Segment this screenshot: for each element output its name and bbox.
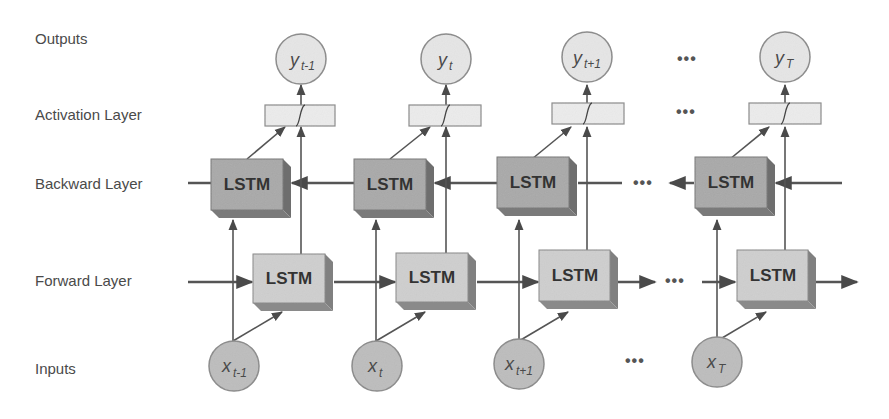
svg-text:t-1: t-1 — [233, 366, 247, 380]
forward-lstm-4: LSTM — [737, 250, 816, 309]
svg-text:y: y — [571, 48, 583, 68]
svg-text:t+1: t+1 — [584, 57, 601, 71]
svg-text:LSTM: LSTM — [510, 173, 556, 192]
svg-text:t-1: t-1 — [301, 59, 315, 73]
forward-lstm-1: LSTM — [253, 254, 333, 311]
input-node-2: x t — [352, 341, 402, 391]
ellipsis-activation: ••• — [676, 103, 696, 120]
svg-text:x: x — [221, 356, 232, 376]
forward-lstm-3: LSTM — [539, 250, 618, 309]
svg-text:y: y — [773, 48, 785, 68]
output-node-1: y t-1 — [276, 34, 326, 84]
backward-lstm-1: LSTM — [211, 159, 291, 218]
ellipsis-inputs: ••• — [625, 352, 645, 369]
output-node-2: y t — [421, 34, 471, 84]
svg-text:x: x — [367, 356, 378, 376]
backward-lstm-4: LSTM — [695, 157, 775, 216]
svg-text:LSTM: LSTM — [409, 268, 455, 287]
output-node-4: y T — [760, 32, 810, 82]
svg-text:LSTM: LSTM — [224, 175, 270, 194]
svg-text:LSTM: LSTM — [266, 269, 312, 288]
svg-text:x: x — [504, 354, 515, 374]
output-node-3: y t+1 — [562, 32, 612, 82]
activation-box-1 — [265, 105, 335, 126]
svg-text:x: x — [706, 352, 717, 372]
svg-text:LSTM: LSTM — [552, 266, 598, 285]
svg-text:LSTM: LSTM — [708, 173, 754, 192]
ellipsis-markers: ••• ••• ••• ••• ••• — [625, 50, 697, 369]
svg-text:y: y — [288, 50, 300, 70]
diagram-canvas: y t-1 y t y t+1 y T — [0, 0, 889, 419]
backward-lstm-2: LSTM — [354, 159, 434, 218]
backward-lstm-3: LSTM — [497, 157, 577, 216]
svg-text:y: y — [436, 50, 448, 70]
ellipsis-forward: ••• — [665, 272, 685, 289]
ellipsis-backward: ••• — [633, 174, 653, 191]
input-node-1: x t-1 — [209, 341, 259, 391]
input-node-4: x T — [692, 337, 742, 387]
bilstm-diagram: Outputs Activation Layer Backward Layer … — [0, 0, 889, 419]
ellipsis-outputs: ••• — [677, 50, 697, 67]
input-node-3: x t+1 — [494, 339, 544, 389]
svg-text:LSTM: LSTM — [750, 266, 796, 285]
activation-box-3 — [552, 103, 624, 124]
activation-box-4 — [749, 103, 821, 124]
activation-box-2 — [409, 105, 481, 126]
svg-text:LSTM: LSTM — [367, 175, 413, 194]
forward-lstm-2: LSTM — [396, 253, 476, 310]
svg-text:t+1: t+1 — [516, 364, 533, 378]
